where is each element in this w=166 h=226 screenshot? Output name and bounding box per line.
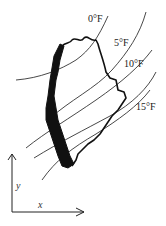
y-axis-label: y: [15, 180, 21, 191]
isotherm-diagram: 0°F 5°F 10°F 15°F y x: [0, 0, 166, 226]
isotherm-10f-label: 10°F: [124, 58, 144, 69]
isotherm-0f-label: 0°F: [88, 13, 103, 24]
isotherm-15f-label: 15°F: [136, 101, 156, 112]
isotherm-5f-label: 5°F: [114, 37, 129, 48]
x-axis-label: x: [37, 199, 43, 210]
western-border: [46, 44, 74, 168]
